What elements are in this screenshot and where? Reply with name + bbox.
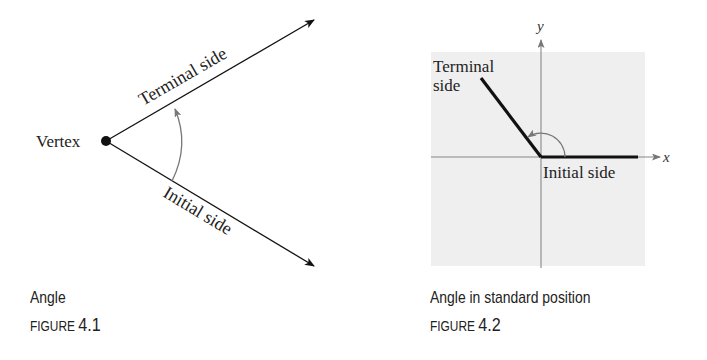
- figure-4-2-diagram: y x Terminal side Initial side: [431, 18, 670, 268]
- figure-4-1-caption: Angle: [30, 288, 66, 308]
- figure-4-2-number: FIGURE 4.2: [430, 314, 501, 336]
- terminal-label-line2: side: [433, 76, 460, 95]
- grid-panel: [431, 52, 645, 266]
- rotation-arc-icon: [172, 109, 182, 181]
- figure-4-2-caption: Angle in standard position: [430, 288, 590, 308]
- initial-side-label: Initial side: [543, 163, 615, 182]
- figure-4-1-number: FIGURE 4.1: [30, 314, 101, 336]
- terminal-label-line1: Terminal: [433, 57, 494, 76]
- figure-number: 4.1: [78, 314, 100, 335]
- initial-side-ray: [106, 141, 314, 266]
- terminal-side-label: Terminal side: [135, 43, 230, 109]
- vertex-label: Vertex: [36, 132, 81, 151]
- figure-4-1-diagram: Vertex Terminal side Initial side: [36, 20, 314, 266]
- x-axis-label: x: [662, 149, 670, 165]
- initial-side-label: Initial side: [160, 182, 236, 239]
- terminal-side-ray: [106, 20, 314, 141]
- figure-word: FIGURE: [430, 318, 475, 334]
- figures-canvas: Vertex Terminal side Initial side y x Te…: [0, 0, 707, 360]
- y-axis-label: y: [535, 18, 544, 34]
- figure-number: 4.2: [478, 314, 500, 335]
- figure-word: FIGURE: [30, 318, 75, 334]
- vertex-dot: [101, 136, 111, 146]
